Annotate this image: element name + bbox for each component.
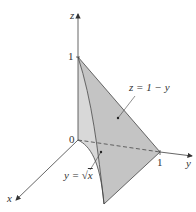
z-axis-label: z	[70, 10, 74, 21]
diagram-canvas	[0, 0, 196, 212]
x-axis-label: x	[7, 193, 12, 204]
origin-label: 0	[69, 134, 75, 145]
y-axis-label: y	[186, 158, 191, 169]
solid-region-figure: z 1 0 x 1 y z = 1 − y y = √x	[0, 0, 196, 212]
y-axis	[160, 152, 192, 156]
cylinder-equation-label: y = √x	[64, 170, 93, 181]
sqrt-radicand: x	[88, 169, 93, 181]
z-tick-label: 1	[68, 51, 74, 62]
cylinder-label-prefix: y =	[64, 169, 82, 181]
plane-equation-label: z = 1 − y	[129, 82, 170, 93]
y-tick-label: 1	[157, 157, 163, 168]
